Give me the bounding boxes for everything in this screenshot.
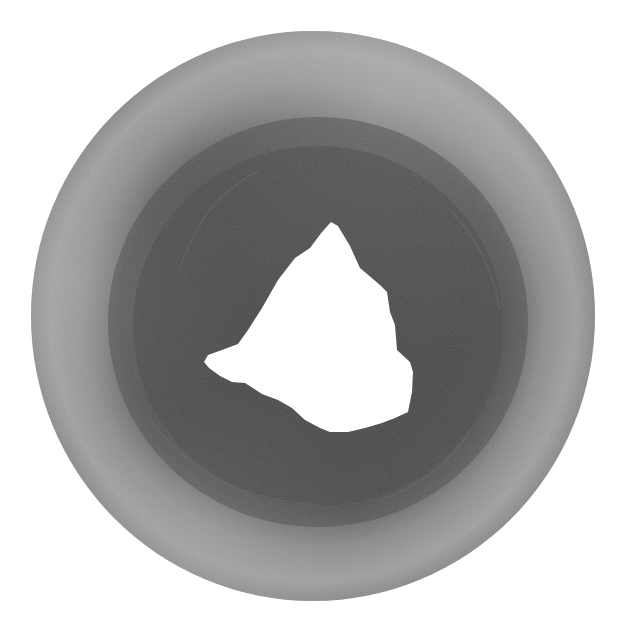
ring-photo [0,0,620,643]
photo-stage [0,0,620,643]
